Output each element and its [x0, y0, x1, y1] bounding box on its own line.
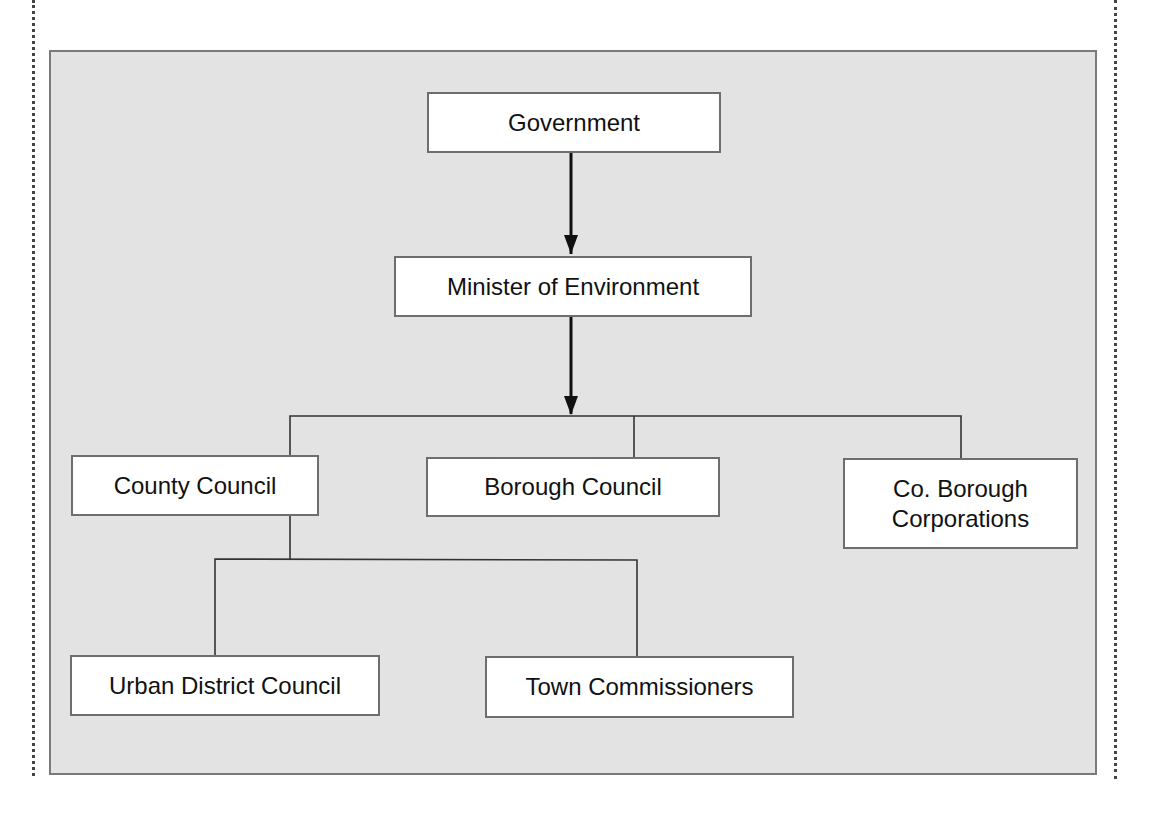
node-town-label: Town Commissioners — [525, 672, 753, 702]
node-county-label: County Council — [114, 471, 277, 501]
node-co-borough-label: Co. Borough Corporations — [876, 474, 1046, 534]
bus-councils — [290, 416, 961, 458]
node-minister-of-environment: Minister of Environment — [394, 256, 752, 317]
bus-county-subunits — [215, 559, 637, 656]
node-co-borough-corporations: Co. Borough Corporations — [843, 458, 1078, 549]
node-county-council: County Council — [71, 455, 319, 516]
node-minister-label: Minister of Environment — [447, 272, 699, 302]
node-borough-council: Borough Council — [426, 457, 720, 517]
node-government: Government — [427, 92, 721, 153]
node-urban-district-council: Urban District Council — [70, 655, 380, 716]
node-town-commissioners: Town Commissioners — [485, 656, 794, 718]
node-borough-label: Borough Council — [484, 472, 661, 502]
node-government-label: Government — [508, 108, 640, 138]
node-urban-label: Urban District Council — [109, 671, 341, 701]
